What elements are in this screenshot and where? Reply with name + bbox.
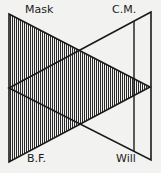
label-mask: Mask <box>25 4 53 15</box>
label-will: Will <box>116 153 136 164</box>
triangle-diagram <box>0 0 161 173</box>
label-bf: B.F. <box>27 153 46 164</box>
diagram-canvas: Mask C.M. B.F. Will <box>0 0 161 173</box>
label-cm: C.M. <box>112 4 136 15</box>
hatched-triangle <box>9 14 150 162</box>
